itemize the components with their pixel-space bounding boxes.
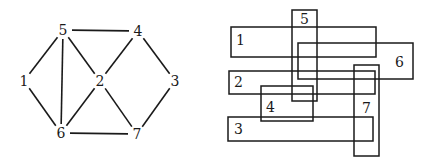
graph-nodes: 1234567	[20, 22, 180, 142]
graph-node-7: 7	[133, 126, 142, 142]
graph-edge-4-2	[105, 38, 132, 74]
graph-edge-2-6	[66, 88, 94, 126]
rectangle-label: 7	[362, 100, 371, 116]
graph-edge-6-7	[70, 133, 128, 134]
graph-edge-3-7	[142, 88, 170, 126]
graph-edge-5-1	[29, 37, 57, 74]
rectangle-label: 6	[395, 54, 404, 70]
graph-node-2: 2	[96, 73, 105, 89]
graph-edge-1-6	[29, 88, 56, 125]
rectangle-outline	[231, 27, 376, 57]
rectangle-label: 2	[234, 74, 243, 90]
graph-edge-5-6	[61, 39, 63, 124]
graph-node-1: 1	[20, 73, 29, 89]
rectangle-outline	[229, 71, 375, 94]
rectangle-label: 4	[266, 99, 275, 115]
graph-edge-4-3	[143, 38, 169, 74]
rectangle-1: 1	[231, 27, 376, 57]
graph-node-5: 5	[59, 22, 68, 38]
rectangle-2: 2	[229, 71, 375, 94]
rectangle-label: 3	[234, 121, 243, 137]
graph-edge-2-7	[105, 88, 132, 126]
graph-edge-5-4	[72, 30, 129, 31]
rectangle-label: 1	[236, 32, 245, 48]
graph-node-3: 3	[171, 73, 180, 89]
rectangle-4: 4	[261, 86, 313, 121]
rectangle-6: 6	[298, 43, 413, 79]
diagram-canvas: 1234567 1234567	[0, 0, 433, 165]
graph-edge-5-2	[68, 37, 94, 73]
rectangle-representation: 1234567	[228, 10, 413, 156]
rectangle-label: 5	[300, 11, 309, 27]
graph-node-6: 6	[57, 125, 66, 141]
graph-node-4: 4	[134, 23, 143, 39]
